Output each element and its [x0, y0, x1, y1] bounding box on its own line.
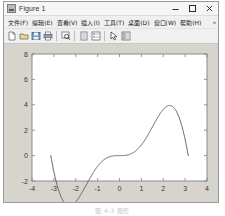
new-document-icon [7, 31, 17, 41]
toolbar-separator-2 [74, 31, 75, 41]
minimize-icon [171, 4, 180, 13]
figure-window: Figure 1 文件(F) 编辑(E) 查看(V) 插入(I) 工具(T) 桌… [3, 1, 219, 203]
x-tick-label: -2 [73, 185, 79, 192]
menu-overflow-chevron-icon[interactable]: » [213, 19, 216, 25]
insert-colorbar-button[interactable] [120, 31, 131, 42]
plot-area[interactable]: -4-3-2-101234-202468 [4, 44, 218, 202]
x-tick-label: 2 [161, 185, 165, 192]
matlab-figure-icon [7, 4, 16, 13]
insert-legend-button[interactable] [90, 31, 101, 42]
menu-edit[interactable]: 编辑(E) [30, 18, 54, 27]
menu-file[interactable]: 文件(F) [6, 18, 30, 27]
y-tick-label: 8 [24, 51, 28, 58]
edit-plot-button[interactable] [108, 31, 119, 42]
zoom-in-button[interactable] [60, 31, 71, 42]
menu-tools[interactable]: 工具(T) [102, 18, 126, 27]
x-tick-label: 3 [183, 185, 187, 192]
data-cursor-icon [79, 31, 89, 41]
x-tick-label: 4 [205, 185, 209, 192]
arrow-pointer-icon [109, 31, 119, 41]
y-tick-label: -2 [22, 178, 28, 185]
toolbar-separator-3 [104, 31, 105, 41]
figure-caption: 图 4-3 图形 [0, 204, 225, 216]
legend-icon [91, 31, 101, 41]
y-tick-label: 0 [24, 152, 28, 159]
figure-caption-text: 图 4-3 图形 [95, 206, 129, 215]
print-figure-button[interactable] [42, 31, 53, 42]
x-tick-label: -1 [95, 185, 101, 192]
menu-desktop[interactable]: 桌面(D) [126, 18, 151, 27]
y-tick-label: 4 [24, 101, 28, 108]
colorbar-icon [121, 31, 131, 41]
x-tick-label: 0 [118, 185, 122, 192]
maximize-button[interactable] [184, 2, 201, 15]
x-tick-label: 1 [139, 185, 143, 192]
menu-help[interactable]: 帮助(H) [178, 18, 203, 27]
save-disk-icon [31, 31, 41, 41]
toolbar [4, 29, 218, 44]
figure-canvas[interactable]: -4-3-2-101234-202468 [4, 44, 218, 202]
open-folder-icon [19, 31, 29, 41]
title-bar[interactable]: Figure 1 [4, 2, 218, 16]
window-title: Figure 1 [19, 5, 45, 12]
axes-background [32, 54, 207, 181]
new-figure-button[interactable] [6, 31, 17, 42]
x-tick-label: -4 [29, 185, 35, 192]
save-figure-button[interactable] [30, 31, 41, 42]
x-tick-label: -3 [51, 185, 57, 192]
toolbar-separator-1 [56, 31, 57, 41]
close-button[interactable] [201, 2, 218, 15]
close-icon [205, 4, 214, 13]
menu-bar: 文件(F) 编辑(E) 查看(V) 插入(I) 工具(T) 桌面(D) 窗口(W… [4, 16, 218, 29]
magnifier-plus-icon [61, 31, 71, 41]
printer-icon [43, 31, 53, 41]
maximize-icon [188, 4, 197, 13]
minimize-button[interactable] [167, 2, 184, 15]
open-file-button[interactable] [18, 31, 29, 42]
y-tick-label: 6 [24, 76, 28, 83]
menu-insert[interactable]: 插入(I) [79, 18, 101, 27]
y-tick-label: 2 [24, 127, 28, 134]
menu-window[interactable]: 窗口(W) [152, 18, 179, 27]
data-cursor-button[interactable] [78, 31, 89, 42]
menu-view[interactable]: 查看(V) [55, 18, 80, 27]
